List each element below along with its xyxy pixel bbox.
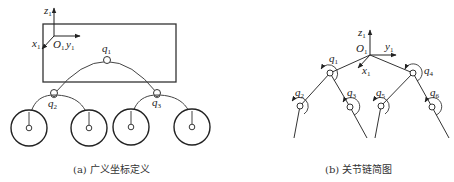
joint-q3-label: q3	[152, 96, 162, 110]
joint-b-q6: q6	[425, 86, 442, 115]
axis-y-label: y1	[65, 38, 75, 52]
svg-text:q1: q1	[329, 52, 339, 66]
joint-b-q5: q5	[373, 86, 389, 114]
caption-a: (a) 广义坐标定义	[73, 163, 150, 175]
axis-z-label-b: z1	[357, 26, 366, 40]
joint-b-q1: q1	[321, 52, 339, 81]
joint-q1-label: q1	[102, 42, 112, 56]
figure-canvas: z1 y1 x1 O1 q1 q2 q3	[0, 0, 454, 182]
svg-text:q6: q6	[430, 86, 440, 100]
joint-b-q3: q3	[343, 86, 360, 115]
joint-b-q4: q4	[405, 64, 434, 81]
svg-text:q2: q2	[295, 86, 305, 100]
panel-b-joint-chain: z1 y1 x1 O1 q1 q4	[292, 26, 449, 175]
joint-q1	[104, 57, 111, 64]
axis-y-label-b: y1	[384, 40, 394, 54]
caption-b: (b) 关节链简图	[325, 163, 392, 175]
axis-z-label: z1	[43, 4, 52, 18]
origin-label: O1	[53, 38, 65, 52]
joint-b-q2: q2	[292, 86, 308, 114]
hip-arc	[55, 62, 157, 94]
panel-a-generalized-coordinates: z1 y1 x1 O1 q1 q2 q3	[11, 4, 210, 175]
joint-q2-label: q2	[48, 97, 58, 111]
svg-text:q4: q4	[424, 64, 434, 78]
origin-label-b: O1	[356, 42, 368, 56]
svg-text:q5: q5	[376, 86, 386, 100]
svg-text:q3: q3	[347, 86, 357, 100]
wheels	[11, 109, 210, 146]
axis-x-label-b: x1	[361, 64, 371, 78]
axis-x-label: x1	[31, 37, 41, 51]
